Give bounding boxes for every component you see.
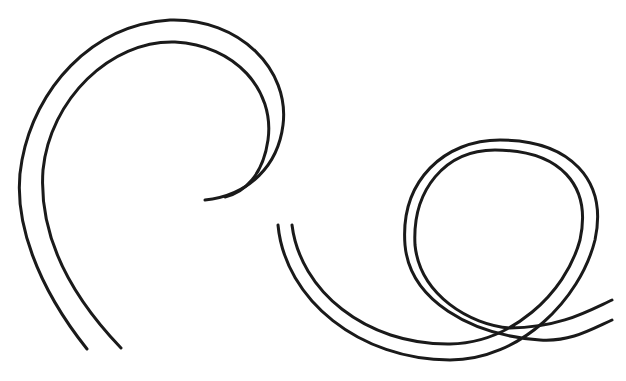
left-spiral-inner xyxy=(43,42,269,348)
right-loop-outer xyxy=(278,140,612,360)
line-drawing xyxy=(0,0,626,381)
